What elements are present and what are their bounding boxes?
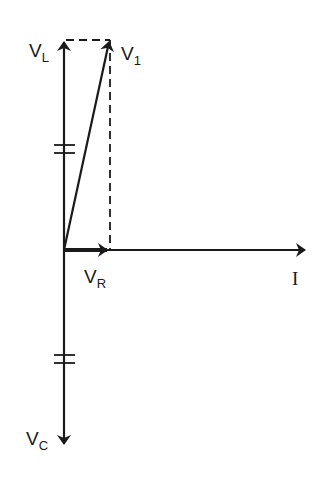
vl-label: VL (29, 40, 49, 65)
phasor-diagram: VL V1 VR I VC (0, 0, 328, 477)
vr-label: VR (84, 266, 106, 291)
i-label: I (292, 268, 298, 289)
vc-label: VC (26, 428, 48, 453)
v1-label: V1 (121, 43, 141, 68)
v1-phasor (64, 42, 109, 250)
